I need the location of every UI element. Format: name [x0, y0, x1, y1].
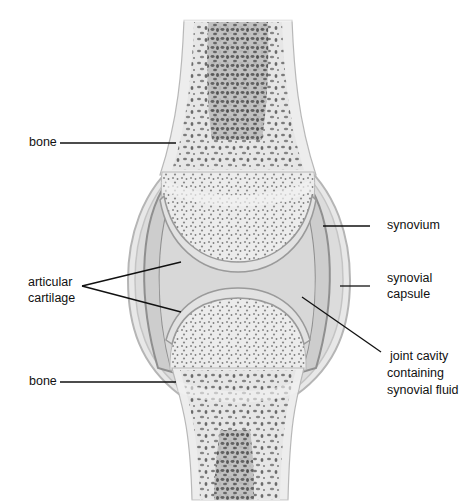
label-synovium: synovium: [387, 218, 440, 233]
label-articular-cartilage-2: cartilage: [28, 291, 75, 306]
label-joint-cavity-1: joint cavity: [390, 349, 448, 364]
label-joint-cavity-2: containing: [387, 366, 444, 381]
label-bone-top: bone: [29, 135, 57, 150]
synovial-joint-diagram: bone articular cartilage bone synovium s…: [0, 0, 476, 504]
label-synovial-capsule-2: capsule: [387, 287, 430, 302]
joint-illustration: [0, 0, 476, 504]
label-articular-cartilage-1: articular: [28, 275, 72, 290]
label-joint-cavity-3: synovial fluid: [387, 383, 459, 398]
label-bone-bottom: bone: [29, 374, 57, 389]
label-synovial-capsule-1: synovial: [387, 271, 432, 286]
